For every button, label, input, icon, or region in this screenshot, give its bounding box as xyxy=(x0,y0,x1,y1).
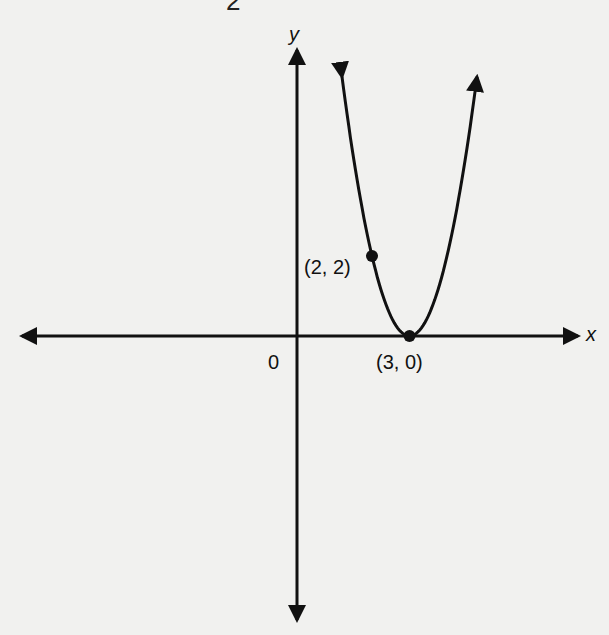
coordinate-plane xyxy=(0,0,609,635)
point-label-3-0: (3, 0) xyxy=(376,351,423,374)
point-label-2-2: (2, 2) xyxy=(304,256,351,279)
data-point xyxy=(404,330,416,342)
origin-label: 0 xyxy=(268,351,279,374)
x-axis-label: x xyxy=(586,323,596,346)
data-point xyxy=(366,250,378,262)
y-axis-label: y xyxy=(289,23,299,46)
parabola-curve xyxy=(342,77,477,336)
